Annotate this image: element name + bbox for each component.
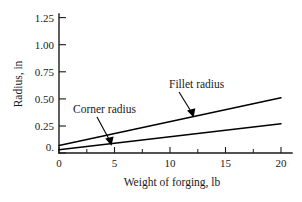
x-tick-label-15: 15	[220, 157, 232, 169]
y-tick-label-1.25: 1.25	[35, 12, 55, 24]
x-tick-label-0: 0	[56, 157, 62, 169]
annotation-corner-radius: Corner radius	[73, 103, 136, 146]
x-tick-label-5: 5	[112, 157, 118, 169]
y-axis-tick-labels: 1.25 1.00 0.75 0.50 0.25 0.	[35, 12, 55, 153]
annotation-label-corner-radius: Corner radius	[73, 103, 136, 115]
y-axis-ticks	[59, 18, 66, 153]
x-tick-label-10: 10	[165, 157, 177, 169]
annotation-label-fillet-radius: Fillet radius	[169, 78, 225, 90]
figure-container: 1.25 1.00 0.75 0.50 0.25 0. 0 5 10	[0, 0, 302, 202]
y-tick-label-0.25: 0.25	[35, 120, 55, 132]
chart-canvas: 1.25 1.00 0.75 0.50 0.25 0. 0 5 10	[0, 0, 302, 202]
x-tick-label-20: 20	[276, 157, 288, 169]
y-axis-title: Radius, in	[12, 60, 25, 107]
x-axis-tick-labels: 0 5 10 15 20	[56, 157, 287, 169]
series-line-corner-radius	[59, 124, 281, 150]
x-axis-ticks	[59, 147, 281, 153]
y-tick-label-0.75: 0.75	[35, 66, 55, 78]
y-tick-label-1.00: 1.00	[35, 39, 55, 51]
x-axis-title: Weight of forging, lb	[124, 176, 221, 189]
y-tick-label-0: 0.	[46, 141, 55, 153]
y-tick-label-0.50: 0.50	[35, 93, 55, 105]
